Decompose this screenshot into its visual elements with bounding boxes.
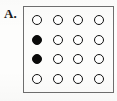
figure-panel: A.	[0, 0, 117, 101]
grid-cell[interactable]	[48, 69, 69, 89]
grid-cell[interactable]	[48, 50, 69, 70]
grid-cell[interactable]	[48, 10, 69, 30]
open-circle-icon[interactable]	[73, 35, 83, 45]
grid-cell[interactable]	[68, 30, 89, 50]
open-circle-icon[interactable]	[32, 74, 42, 84]
grid-cell[interactable]	[68, 10, 89, 30]
grid-cell[interactable]	[68, 69, 89, 89]
grid-cell[interactable]	[48, 30, 69, 50]
open-circle-icon[interactable]	[94, 35, 104, 45]
grid-cell[interactable]	[89, 30, 110, 50]
open-circle-icon[interactable]	[73, 54, 83, 64]
filled-circle-icon[interactable]	[32, 35, 42, 45]
open-circle-icon[interactable]	[94, 54, 104, 64]
open-circle-icon[interactable]	[94, 74, 104, 84]
open-circle-icon[interactable]	[53, 74, 63, 84]
open-circle-icon[interactable]	[73, 74, 83, 84]
grid-cell[interactable]	[27, 69, 48, 89]
open-circle-icon[interactable]	[73, 15, 83, 25]
grid-cell[interactable]	[89, 10, 110, 30]
grid-cell[interactable]	[89, 50, 110, 70]
open-circle-icon[interactable]	[53, 15, 63, 25]
grid-container	[23, 6, 114, 93]
grid-cell[interactable]	[27, 30, 48, 50]
filled-circle-icon[interactable]	[32, 54, 42, 64]
grid-cell[interactable]	[68, 50, 89, 70]
open-circle-icon[interactable]	[53, 54, 63, 64]
grid-cell[interactable]	[89, 69, 110, 89]
page-title: A.	[4, 6, 22, 22]
open-circle-icon[interactable]	[32, 15, 42, 25]
open-circle-icon[interactable]	[94, 15, 104, 25]
grid-cell[interactable]	[27, 50, 48, 70]
open-circle-icon[interactable]	[53, 35, 63, 45]
grid-cell[interactable]	[27, 10, 48, 30]
circle-grid	[24, 7, 113, 92]
